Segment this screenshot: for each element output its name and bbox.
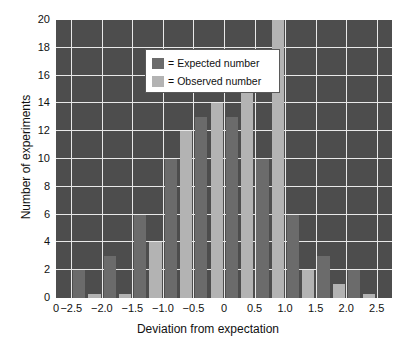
x-axis-title: Deviation from expectation [0, 322, 416, 336]
bar-observed [333, 284, 345, 298]
gridline-vertical [285, 20, 286, 298]
bar-expected [226, 117, 238, 298]
legend-equals-sign: = [168, 57, 174, 69]
bar-expected [195, 117, 207, 298]
y-axis-title: Number of experiments [19, 47, 33, 267]
legend-item-expected: = Expected number [152, 55, 273, 71]
chart-figure: = Expected number = Observed number 0246… [0, 0, 416, 345]
legend-equals-sign: = [168, 75, 174, 87]
legend-swatch-observed-icon [152, 76, 164, 87]
bar-observed [241, 76, 253, 298]
gridline-vertical [346, 20, 347, 298]
bar-expected [317, 256, 329, 298]
chart-legend: = Expected number = Observed number [145, 49, 280, 93]
bar-observed [119, 294, 131, 298]
bar-expected [165, 159, 177, 298]
bar-expected [104, 256, 116, 298]
legend-swatch-expected-icon [152, 58, 164, 69]
bar-expected [73, 270, 85, 298]
bar-observed [211, 103, 223, 298]
bar-observed [302, 270, 314, 298]
legend-label-observed: Observed number [177, 75, 261, 87]
y-tick-label: 20 [26, 14, 50, 25]
bar-expected [287, 215, 299, 298]
gridline-vertical [71, 20, 72, 298]
bar-observed [149, 242, 161, 298]
bar-observed [88, 294, 100, 298]
x-tick-label: 2.5 [357, 302, 397, 314]
bar-expected [134, 215, 146, 298]
gridline-vertical [377, 20, 378, 298]
bar-observed [180, 131, 192, 298]
legend-label-expected: Expected number [177, 57, 259, 69]
gridline-vertical [316, 20, 317, 298]
bar-observed [363, 294, 375, 298]
legend-item-observed: = Observed number [152, 73, 273, 89]
bar-expected [348, 270, 360, 298]
plot-area: = Expected number = Observed number [56, 20, 392, 298]
bar-expected [256, 159, 268, 298]
